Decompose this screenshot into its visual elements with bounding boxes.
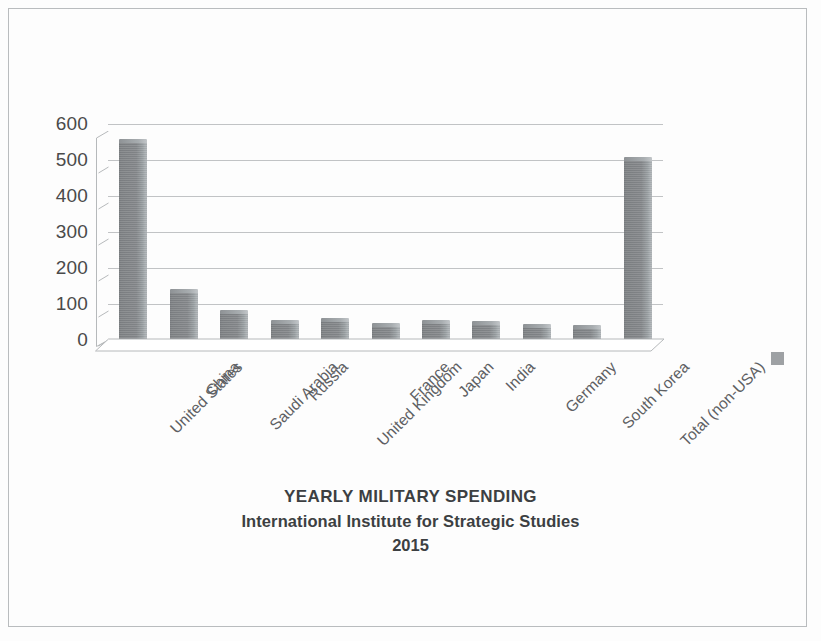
bar-cap bbox=[170, 289, 198, 293]
bar-cap bbox=[321, 318, 349, 322]
x-label-france: France bbox=[406, 358, 453, 405]
plot-area bbox=[108, 124, 663, 340]
bar-cap bbox=[472, 321, 500, 325]
y-tick-600: 600 bbox=[36, 113, 88, 135]
y-tick-400: 400 bbox=[36, 185, 88, 207]
bar-south-korea bbox=[573, 328, 601, 340]
bar-cap bbox=[624, 157, 652, 161]
x-label-united-kingdom: United Kingdom bbox=[374, 358, 466, 450]
y-tick-0: 0 bbox=[36, 329, 88, 351]
chart-subtitle: International Institute for Strategic St… bbox=[0, 512, 821, 531]
gridline-0 bbox=[108, 340, 663, 341]
bar-saudi-arabia bbox=[220, 313, 248, 340]
x-label-south-korea: South Korea bbox=[619, 358, 693, 432]
chart-title-block: YEARLY MILITARY SPENDING International I… bbox=[0, 487, 821, 555]
bar-india bbox=[472, 324, 500, 340]
gridline-600 bbox=[108, 124, 663, 125]
bar-germany bbox=[523, 327, 551, 340]
bar-cap bbox=[220, 310, 248, 314]
bar-cap bbox=[372, 323, 400, 327]
gridline-500 bbox=[108, 160, 663, 161]
gridline-300 bbox=[108, 232, 663, 233]
bar-united-states bbox=[119, 142, 147, 340]
x-label-germany: Germany bbox=[562, 358, 620, 416]
x-label-saudi-arabia: Saudi Arabia bbox=[266, 358, 342, 434]
y-axis-tick-labels: 600 500 400 300 200 100 0 bbox=[36, 124, 88, 340]
x-label-russia: Russia bbox=[305, 358, 352, 405]
bar-china bbox=[170, 292, 198, 340]
legend-swatch bbox=[771, 352, 784, 365]
bar-total-non-usa bbox=[624, 160, 652, 340]
y-tick-200: 200 bbox=[36, 257, 88, 279]
bar-cap bbox=[119, 139, 147, 143]
bar-united-kingdom bbox=[321, 321, 349, 340]
bar-cap bbox=[271, 320, 299, 324]
bar-cap bbox=[422, 320, 450, 324]
bar-japan bbox=[422, 323, 450, 340]
bar-cap bbox=[573, 325, 601, 329]
x-label-japan: Japan bbox=[454, 358, 497, 401]
y-tick-100: 100 bbox=[36, 293, 88, 315]
bar-cap bbox=[523, 324, 551, 328]
x-label-china: China bbox=[202, 358, 244, 400]
bar-france bbox=[372, 326, 400, 340]
chart-title: YEARLY MILITARY SPENDING bbox=[0, 487, 821, 507]
x-label-total-non-usa: Total (non-USA) bbox=[677, 358, 769, 450]
bar-russia bbox=[271, 323, 299, 340]
chart-year: 2015 bbox=[0, 536, 821, 555]
y-tick-500: 500 bbox=[36, 149, 88, 171]
x-label-india: India bbox=[502, 358, 539, 395]
gridline-200 bbox=[108, 268, 663, 269]
gridline-400 bbox=[108, 196, 663, 197]
chart-figure: 600 500 400 300 200 100 0 United StatesC… bbox=[0, 0, 821, 641]
y-tick-300: 300 bbox=[36, 221, 88, 243]
x-label-united-states: United States bbox=[167, 358, 246, 437]
